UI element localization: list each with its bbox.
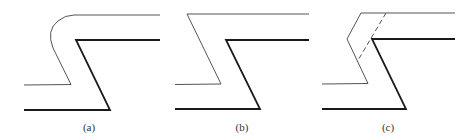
panel-a-bold-step bbox=[24, 40, 160, 110]
diagram-canvas bbox=[0, 0, 476, 137]
panel-c-label: (c) bbox=[373, 121, 403, 133]
panel-a-label: (a) bbox=[74, 121, 104, 133]
panel-c bbox=[322, 13, 455, 109]
panel-c-bold-step bbox=[322, 39, 455, 109]
panel-a bbox=[24, 15, 160, 110]
panel-b bbox=[175, 14, 309, 109]
panel-b-bold-step bbox=[175, 40, 309, 109]
panel-b-label: (b) bbox=[227, 121, 257, 133]
panel-c-dashed-line bbox=[357, 13, 386, 62]
